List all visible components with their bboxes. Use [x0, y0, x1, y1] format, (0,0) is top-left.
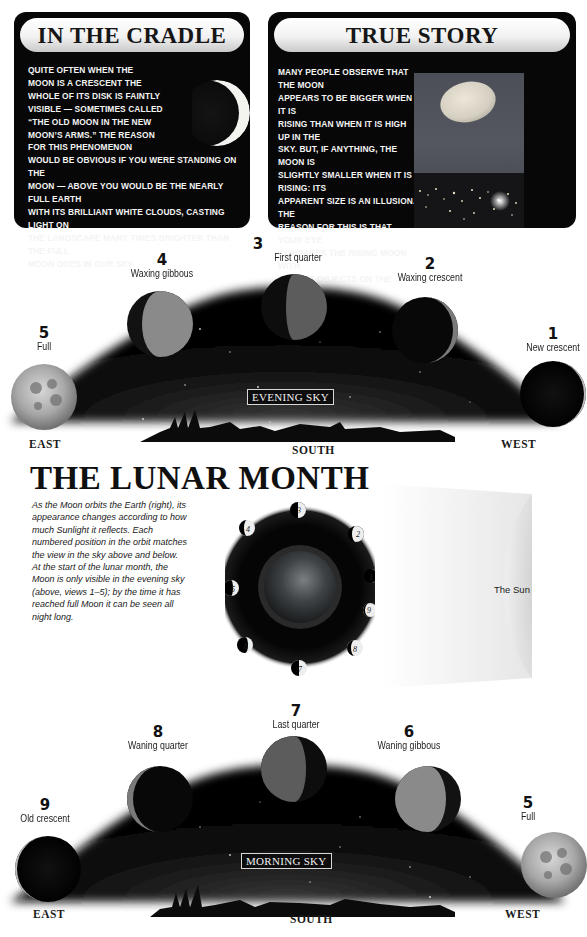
full-moon-icon: [11, 364, 77, 430]
svg-text:2: 2: [356, 530, 360, 539]
compass-east: EAST: [33, 908, 65, 920]
compass-west: WEST: [501, 438, 536, 450]
phase-name: Waxing gibbous: [109, 268, 215, 280]
crescent-moon-icon: [192, 78, 250, 148]
compass-west: WEST: [505, 908, 540, 920]
intro-text: As the Moon orbits the Earth (right), it…: [32, 499, 192, 623]
phase-label-5: 5 Full: [0, 325, 104, 353]
phase-number: 8: [98, 724, 218, 740]
text-line: with its brilliant white clouds, casting…: [28, 206, 240, 232]
phase-name: Full: [0, 341, 97, 353]
phase-name: First quarter: [245, 252, 351, 264]
svg-text:9: 9: [367, 606, 371, 615]
orbit-moon-7: 7: [291, 660, 307, 676]
compass-south: SOUTH: [292, 444, 335, 456]
text-line: apparent size is an illusion. The: [278, 195, 418, 221]
phase-name: Old crescent: [0, 813, 98, 825]
phase-label-6: 6 Waning gibbous: [349, 724, 469, 752]
morning-sky-diagram: 9 Old crescent 8 Waning quarter 7 Last q…: [0, 697, 587, 937]
phase-number: 2: [370, 256, 490, 272]
text-line: would be obvious if you were standing on…: [28, 154, 240, 180]
text-line: sky. But, if anything, the Moon is: [278, 143, 418, 169]
phase-number: 6: [349, 724, 469, 740]
intro-paragraph: At the start of the lunar month, the Moo…: [32, 561, 192, 623]
phase-name: Waning quarter: [105, 740, 211, 752]
moon-orbit-diagram: 3 2 1 9 8 7 6 5 4: [225, 492, 375, 682]
phase-number: 7: [236, 703, 356, 719]
phase-number: 1: [493, 326, 587, 342]
text-line: appears to be bigger when it is: [278, 92, 418, 118]
svg-text:4: 4: [246, 525, 250, 534]
phase-number: 5: [468, 795, 587, 811]
phase-number: 3: [248, 236, 268, 252]
phase-label-9: 9 Old crescent: [0, 797, 105, 825]
orbit-moon-3: 3: [290, 502, 306, 518]
svg-text:5: 5: [231, 585, 235, 594]
morning-sky-caption: MORNING SKY: [241, 853, 332, 869]
text-line: Quite often when the: [28, 64, 240, 77]
phase-name: New crescent: [500, 342, 587, 354]
phase-name: Waxing crescent: [377, 272, 483, 284]
svg-text:3: 3: [296, 506, 301, 515]
phase-number: 5: [0, 325, 104, 341]
in-the-cradle-card: IN THE CRADLE Quite often when the Moon …: [14, 12, 250, 228]
evening-sky-diagram: 5 Full 4 Waxing gibbous 3 First quarter …: [0, 232, 587, 457]
phase-name: Full: [475, 811, 581, 823]
phase-name: Waning gibbous: [356, 740, 462, 752]
sunlight-panel: [382, 478, 587, 693]
phase-label-8: 8 Waning quarter: [98, 724, 218, 752]
moonrise-over-city-photo: [414, 73, 524, 228]
card-title: IN THE CRADLE: [20, 18, 244, 52]
svg-text:6: 6: [244, 642, 248, 651]
phase-label-2: 2 Waxing crescent: [370, 256, 490, 284]
text-line: rising than when it is high up in the: [278, 118, 418, 144]
compass-south: SOUTH: [290, 913, 333, 925]
phase-label-4: 4 Waxing gibbous: [102, 252, 222, 280]
intro-paragraph: As the Moon orbits the Earth (right), it…: [32, 499, 192, 561]
phase-number-3: 3: [248, 236, 268, 252]
svg-text:1: 1: [369, 573, 373, 582]
earth-icon: [264, 551, 336, 623]
sun-label: The Sun: [494, 584, 530, 595]
orbit-moon-2: 2: [348, 526, 364, 542]
text-line: Moon — above you would be the nearly ful…: [28, 180, 240, 206]
orbit-moon-4: 4: [239, 520, 255, 536]
orbit-moon-6: 6: [237, 637, 253, 653]
phase-label-3: First quarter: [238, 252, 358, 264]
orbit-moon-8: 8: [347, 640, 363, 656]
phase-number: 4: [102, 252, 222, 268]
phase-label-7: 7 Last quarter: [236, 703, 356, 731]
svg-text:8: 8: [353, 645, 357, 654]
phase-name: Last quarter: [243, 719, 349, 731]
true-story-card: TRUE STORY Many people observe that the …: [268, 12, 576, 228]
phase-label-5: 5 Full: [468, 795, 587, 823]
page-title: THE LUNAR MONTH: [30, 461, 369, 495]
text-line: Many people observe that the Moon: [278, 66, 418, 92]
compass-east: EAST: [29, 438, 61, 450]
evening-sky-caption: EVENING SKY: [247, 389, 334, 405]
phase-number: 9: [0, 797, 105, 813]
phase-label-1: 1 New crescent: [493, 326, 587, 354]
card-title: TRUE STORY: [274, 18, 570, 52]
text-line: slightly smaller when it is rising: its: [278, 169, 418, 195]
